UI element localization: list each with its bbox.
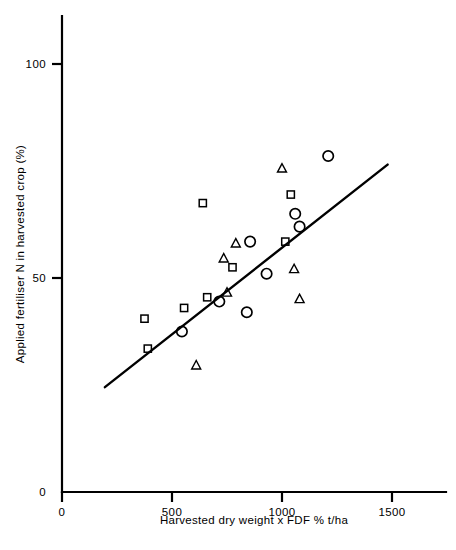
y-tick-label: 50 (32, 272, 46, 284)
x-axis-label: Harvested dry weight x FDF % t/ha (160, 514, 349, 526)
data-point-square (181, 304, 188, 311)
data-point-square (141, 315, 148, 322)
axes-group (62, 16, 446, 492)
data-point-triangle (192, 361, 201, 369)
data-point-triangle (278, 164, 287, 172)
data-point-circle (261, 269, 271, 279)
y-axis-label: Applied fertiliser N in harvested crop (… (14, 145, 26, 363)
data-point-square (287, 191, 294, 198)
y-tick-label: 0 (39, 486, 46, 498)
data-point-triangle (290, 264, 299, 272)
data-point-triangle (231, 239, 240, 247)
tick-labels-group: 050010001500050100 (26, 58, 406, 518)
scatter-plot-figure: 050010001500050100 Harvested dry weight … (0, 0, 456, 550)
data-point-circle (294, 221, 304, 231)
data-point-circle (245, 236, 255, 246)
data-point-square (204, 294, 211, 301)
data-point-circle (323, 151, 333, 161)
plot-canvas: 050010001500050100 Harvested dry weight … (0, 0, 456, 550)
data-point-square (199, 200, 206, 207)
data-point-triangle (219, 254, 228, 262)
data-point-square (229, 264, 236, 271)
ticks-group (52, 64, 392, 502)
data-point-triangle (295, 294, 304, 302)
regression-line (105, 165, 388, 388)
data-point-circle (242, 307, 252, 317)
data-point-circle (290, 209, 300, 219)
x-tick-label: 1500 (378, 506, 405, 518)
x-tick-label: 0 (59, 506, 66, 518)
y-tick-label: 100 (26, 58, 46, 70)
fit-line-group (105, 165, 388, 388)
